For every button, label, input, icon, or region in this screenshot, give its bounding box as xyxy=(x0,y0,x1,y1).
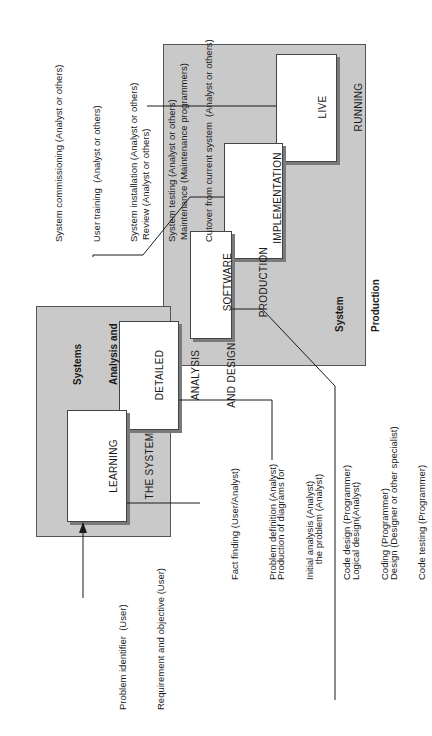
note-line: Problem identifier (User) xyxy=(117,568,130,710)
notes-software: Code design (Programmer) Coding (Program… xyxy=(316,465,432,580)
note-line: System commissioning (Analyst or others) xyxy=(53,39,66,242)
note-line: Coding (Programmer) xyxy=(379,465,392,580)
note-line: Requirement and objective (User) xyxy=(155,568,168,710)
note-line: Code testing (Programmer) xyxy=(416,465,429,580)
notes-input: Problem identifier (User) Requirement an… xyxy=(92,568,180,710)
note-line: Maintenance (Maintenance programmers) xyxy=(178,63,191,240)
notes-live-running: Review (Analyst or others) Maintenance (… xyxy=(115,63,203,240)
arrow-up-icon xyxy=(79,522,87,533)
note-line: Code design (Programmer) xyxy=(341,465,354,580)
note-line: Production of diagrams for xyxy=(275,426,288,580)
note-line: User training (Analyst or others) xyxy=(91,39,104,242)
note-line: Cutover from current system (Analyst or … xyxy=(203,39,216,242)
note-line: Fact finding (User/Analyst) xyxy=(229,464,242,580)
note-line: Review (Analyst or others) xyxy=(140,63,153,240)
